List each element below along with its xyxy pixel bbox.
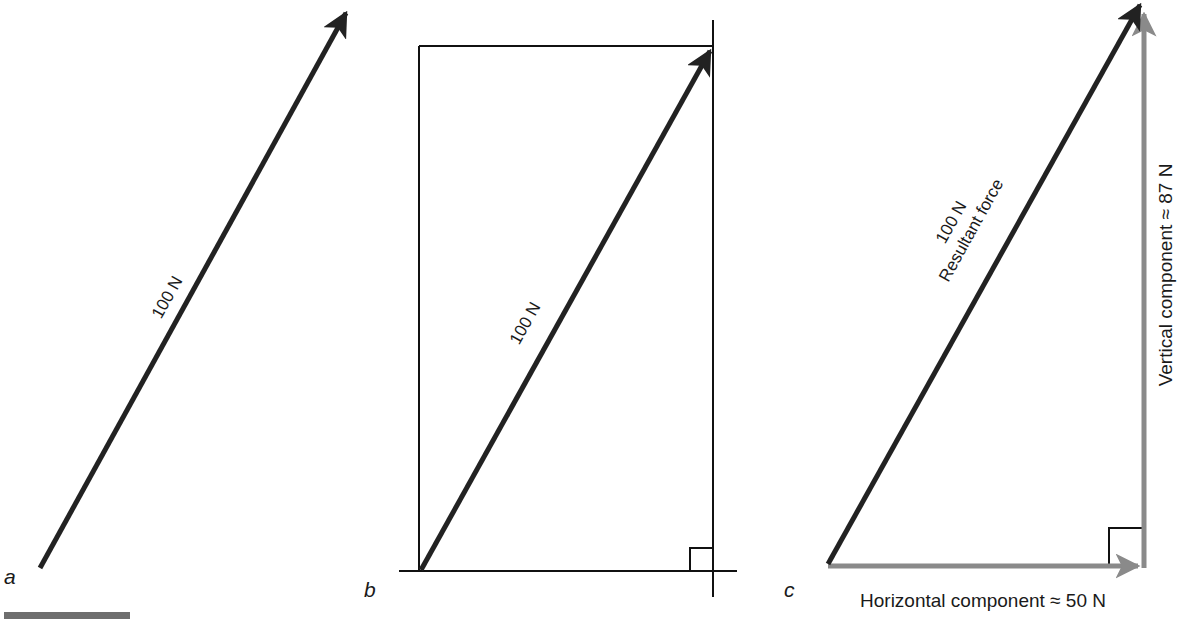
force-magnitude-label: 100 N: [506, 299, 545, 348]
resultant-force-arrow: [40, 13, 346, 568]
panel-c: 100 N Resultant force Horizontal compone…: [784, 5, 1176, 611]
panel-letter-a: a: [4, 565, 16, 588]
panel-letter-b: b: [364, 578, 376, 601]
panel-letter-c: c: [784, 578, 795, 601]
panel-a: 100 N a: [4, 13, 346, 619]
right-angle-marker: [690, 548, 713, 571]
panel-b: 100 N b: [364, 20, 737, 601]
scale-bar: [4, 612, 130, 619]
horizontal-component-label: Horizontal component ≈ 50 N: [860, 590, 1106, 611]
force-resolution-diagram: 100 N a 100 N b 100 N Resultant force Ho…: [0, 0, 1186, 619]
right-angle-marker: [1109, 528, 1142, 564]
vertical-component-label: Vertical component ≈ 87 N: [1155, 164, 1176, 387]
resultant-force-arrow: [828, 5, 1140, 564]
resultant-force-arrow: [421, 51, 710, 570]
